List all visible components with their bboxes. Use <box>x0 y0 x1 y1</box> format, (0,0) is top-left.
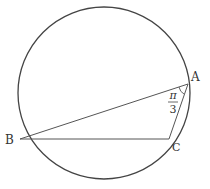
point-label-a: A <box>190 70 200 84</box>
angle-numerator: π <box>168 89 177 102</box>
point-label-b: B <box>5 133 14 147</box>
segment-ab <box>20 84 188 139</box>
point-label-c: C <box>172 141 180 154</box>
angle-denominator: 3 <box>170 103 177 116</box>
circle-diagram: A B C π 3 <box>0 0 210 189</box>
angle-arc-a <box>179 87 184 94</box>
circumcircle <box>18 7 190 179</box>
